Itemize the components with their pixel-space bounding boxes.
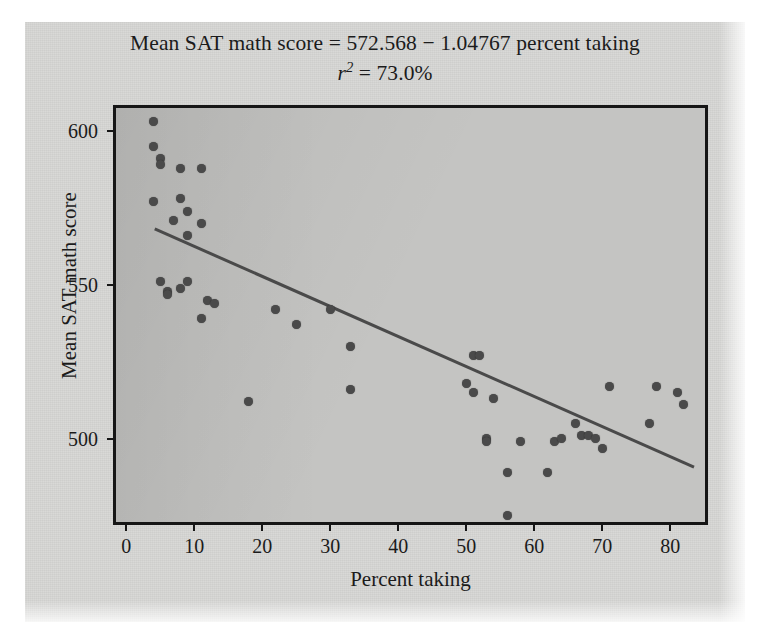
- x-tick-label: 30: [320, 535, 340, 558]
- y-tick: [107, 130, 116, 132]
- x-tick: [397, 522, 399, 531]
- x-axis-label: Percent taking: [113, 567, 708, 592]
- plot-area: 01020304050607080 500550600: [116, 108, 705, 522]
- scatter-point: [163, 290, 172, 299]
- x-tick: [465, 522, 467, 531]
- r-value: = 73.0%: [353, 61, 432, 85]
- chart-title-equation: Mean SAT math score = 572.568 − 1.04767 …: [25, 30, 745, 58]
- x-tick-label: 70: [592, 535, 612, 558]
- scatter-point: [469, 388, 478, 397]
- x-tick-label: 50: [456, 535, 476, 558]
- r-symbol: r: [337, 61, 345, 85]
- y-tick: [107, 284, 116, 286]
- y-tick: [107, 438, 116, 440]
- scatter-point: [571, 419, 580, 428]
- x-tick-label: 0: [121, 535, 131, 558]
- scatter-point: [503, 511, 512, 520]
- x-tick: [601, 522, 603, 531]
- scatter-point: [210, 299, 219, 308]
- scatter-point: [156, 277, 165, 286]
- figure-plate: Mean SAT math score = 572.568 − 1.04767 …: [25, 22, 745, 622]
- x-tick: [669, 522, 671, 531]
- x-tick-label: 10: [184, 535, 204, 558]
- plot-frame: 01020304050607080 500550600: [113, 105, 708, 525]
- x-tick: [329, 522, 331, 531]
- scatter-point: [197, 164, 206, 173]
- x-tick: [261, 522, 263, 531]
- scatter-point: [176, 164, 185, 173]
- scatter-point: [652, 382, 661, 391]
- y-axis-label: Mean SAT math score: [57, 136, 82, 436]
- x-tick: [125, 522, 127, 531]
- scatter-point: [183, 207, 192, 216]
- scatter-point: [346, 342, 355, 351]
- chart-title-rsquared: r2 = 73.0%: [25, 58, 745, 88]
- scatter-point: [197, 219, 206, 228]
- scatter-point: [503, 468, 512, 477]
- scatter-point: [149, 142, 158, 151]
- scatter-point: [598, 444, 607, 453]
- x-tick-label: 80: [660, 535, 680, 558]
- scatter-point: [176, 284, 185, 293]
- x-tick: [193, 522, 195, 531]
- scatter-point: [605, 382, 614, 391]
- scatter-point: [673, 388, 682, 397]
- x-tick-label: 40: [388, 535, 408, 558]
- x-tick-label: 20: [252, 535, 272, 558]
- scatter-point: [326, 305, 335, 314]
- scatter-point: [197, 314, 206, 323]
- x-tick-label: 60: [524, 535, 544, 558]
- x-tick: [533, 522, 535, 531]
- regression-line-segment: [155, 229, 694, 467]
- scatter-point: [462, 379, 471, 388]
- chart-title: Mean SAT math score = 572.568 − 1.04767 …: [25, 30, 745, 88]
